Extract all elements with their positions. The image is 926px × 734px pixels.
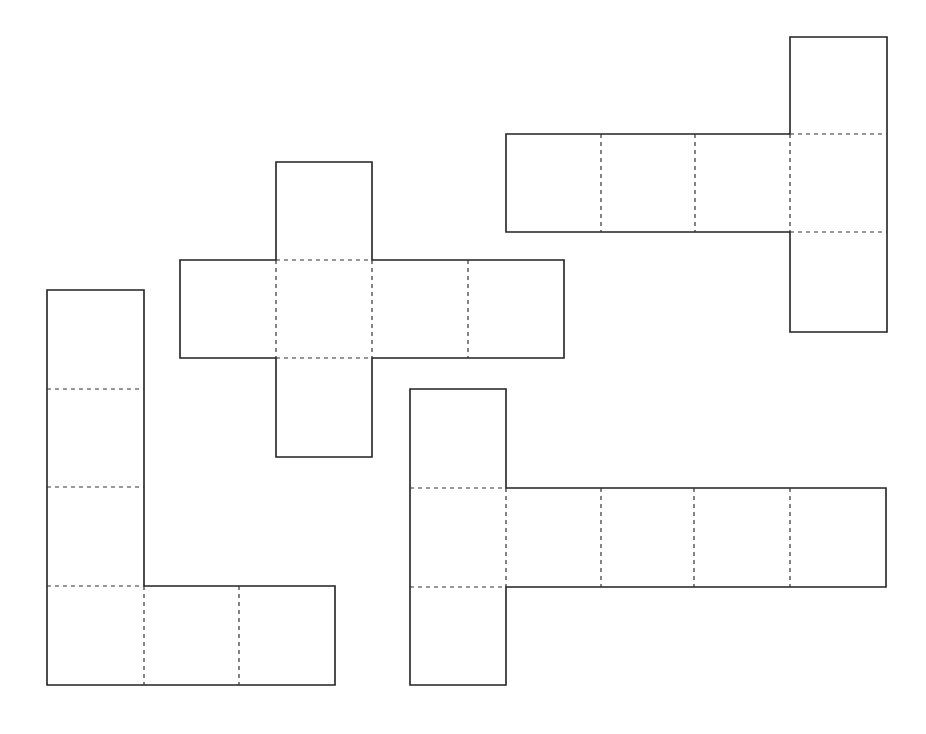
net-outline [410, 389, 886, 685]
bottom-right-net [410, 389, 886, 685]
cube-nets-diagram [0, 0, 926, 734]
